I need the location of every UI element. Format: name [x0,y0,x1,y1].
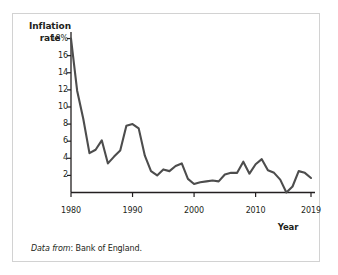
figure-container: Inflation rate 18%161412108642 198019902… [12,13,320,262]
x-tick-label: 2019 [291,206,331,215]
x-axis-tick-labels: 19801990200020102019 [13,14,321,219]
x-tick-label: 1980 [51,206,91,215]
source-note-lead: Data from [31,244,71,253]
x-tick-label: 1990 [113,206,153,215]
chart-plot-area: Inflation rate 18%161412108642 198019902… [13,14,321,219]
x-tick-label: 2000 [174,206,214,215]
source-note: Data from: Bank of England. [31,244,142,254]
x-tick-label: 2010 [236,206,276,215]
x-axis-title: Year [263,222,313,232]
source-note-rest: : Bank of England. [71,244,142,253]
